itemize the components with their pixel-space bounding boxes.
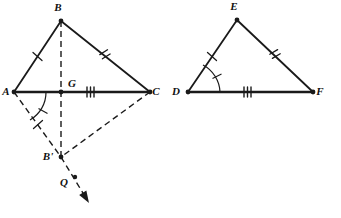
tick-AB-mark-1 <box>33 53 42 61</box>
geometry-figure: A B C G B' Q <box>0 0 341 218</box>
left-vertex-dots <box>12 19 153 180</box>
vertex-dot-D <box>186 90 191 95</box>
tick-ABprime <box>34 121 43 129</box>
triangle-def-outline <box>188 20 313 92</box>
triangle-abc-outline <box>14 21 150 92</box>
left-vertex-labels: A B C G B' Q <box>1 1 160 188</box>
label-G: G <box>68 77 76 89</box>
figure-canvas: A B C G B' Q <box>0 0 341 218</box>
segment-DE <box>188 20 237 92</box>
segment-EF <box>237 20 313 92</box>
tick-ABprime-mark-1 <box>34 121 43 129</box>
angle-A-between-AC-and-ABprime <box>30 92 48 120</box>
right-vertex-dots <box>186 18 316 95</box>
vertex-dot-Bprime <box>59 155 64 160</box>
left-figure: A B C G B' Q <box>1 1 160 203</box>
label-B: B <box>53 1 61 13</box>
vertex-dot-G <box>59 90 64 95</box>
angle-A-arc <box>30 92 46 120</box>
vertex-dot-E <box>235 18 240 23</box>
label-C: C <box>152 85 160 97</box>
label-Q: Q <box>60 176 68 188</box>
label-E: E <box>229 0 237 12</box>
dashed-construction-lines <box>14 21 150 157</box>
tick-AB <box>33 53 42 61</box>
right-figure: D E F <box>171 0 324 97</box>
segment-C-to-Bprime <box>61 92 150 157</box>
label-F: F <box>315 85 324 97</box>
label-A: A <box>1 85 9 97</box>
tick-EF <box>270 50 280 59</box>
vertex-dot-Q <box>73 175 77 179</box>
label-Bprime: B' <box>42 150 53 162</box>
vertex-dot-F <box>311 90 316 95</box>
angle-D-arc <box>203 65 220 92</box>
vertex-dot-A <box>12 90 17 95</box>
label-D: D <box>171 85 180 97</box>
arrowhead-icon <box>79 191 89 203</box>
angle-D-between-DF-and-DE <box>203 65 222 92</box>
tick-BC <box>100 50 110 59</box>
vertex-dot-B <box>59 19 64 24</box>
